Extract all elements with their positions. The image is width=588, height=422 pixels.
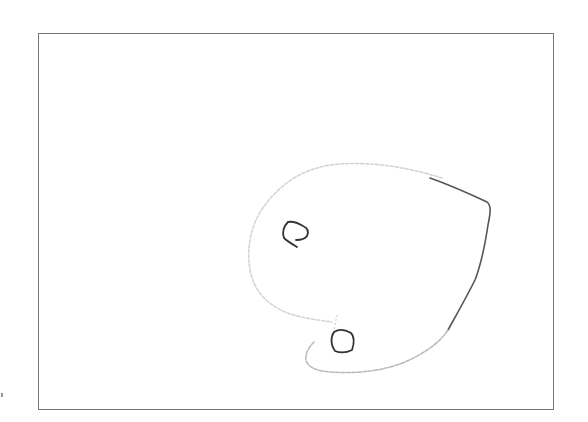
sketch-svg: [0, 0, 588, 422]
lower-loop: [331, 330, 353, 353]
drawing-canvas: [0, 0, 588, 422]
upper-loop: [283, 222, 308, 247]
outer-outline-bottom: [306, 330, 448, 373]
outer-outline-faint: [249, 163, 442, 322]
outer-outline-connector: [334, 315, 337, 330]
outer-outline-right-edge: [430, 178, 490, 330]
